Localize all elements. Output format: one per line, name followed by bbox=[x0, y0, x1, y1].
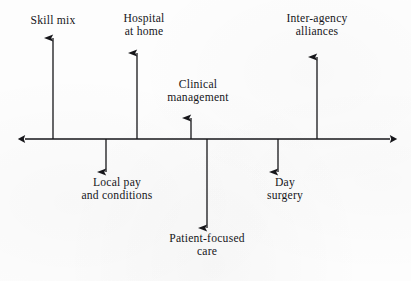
node-label-line: surgery bbox=[267, 189, 303, 202]
node-label-line: management bbox=[167, 91, 229, 104]
node-label-local-pay-and-conditions: Local payand conditions bbox=[81, 176, 152, 203]
diagram-canvas: Skill mixHospitalat homeClinicalmanageme… bbox=[0, 0, 411, 281]
node-label-inter-agency-alliances: Inter-agencyalliances bbox=[286, 12, 347, 39]
node-label-line: Skill mix bbox=[31, 14, 76, 27]
node-label-line: Inter-agency bbox=[286, 12, 347, 25]
node-label-line: Local pay bbox=[81, 176, 152, 189]
node-label-line: Clinical bbox=[167, 78, 229, 91]
node-label-line: care bbox=[169, 245, 245, 258]
node-label-patient-focused-care: Patient-focusedcare bbox=[169, 232, 245, 259]
node-label-skill-mix: Skill mix bbox=[31, 14, 76, 27]
node-label-hospital-at-home: Hospitalat home bbox=[123, 12, 164, 39]
node-label-line: Day bbox=[267, 176, 303, 189]
node-label-clinical-management: Clinicalmanagement bbox=[167, 78, 229, 105]
node-label-line: at home bbox=[123, 25, 164, 38]
node-label-line: Hospital bbox=[123, 12, 164, 25]
node-label-line: Patient-focused bbox=[169, 232, 245, 245]
node-label-line: alliances bbox=[286, 25, 347, 38]
node-label-line: and conditions bbox=[81, 189, 152, 202]
node-label-day-surgery: Daysurgery bbox=[267, 176, 303, 203]
